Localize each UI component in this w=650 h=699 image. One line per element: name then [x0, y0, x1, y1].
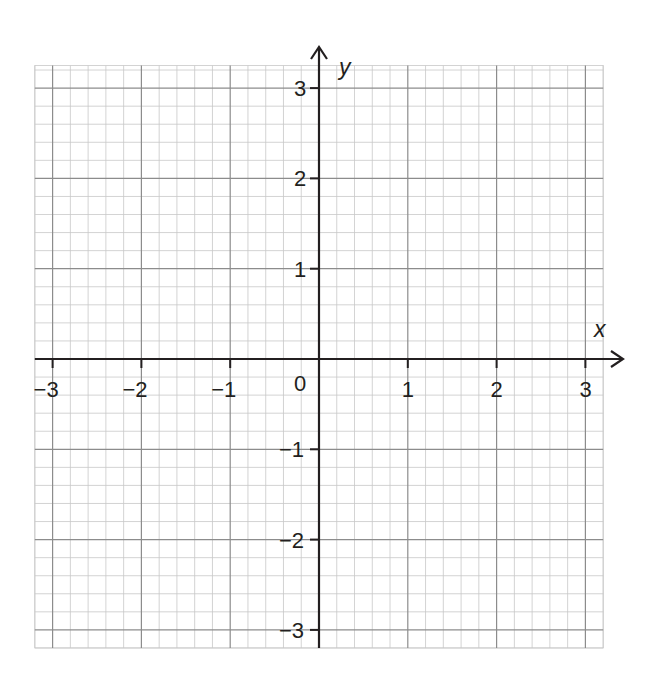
y-tick-label: −1	[279, 439, 304, 461]
x-tick-label: −3	[34, 379, 59, 401]
x-tick-label: −1	[211, 379, 236, 401]
x-tick-label: 1	[402, 379, 414, 401]
coordinate-grid	[0, 0, 650, 699]
y-axis-label: y	[339, 56, 351, 79]
origin-label: 0	[294, 373, 306, 395]
x-tick-label: 2	[491, 379, 503, 401]
y-tick-label: −2	[279, 530, 304, 552]
y-tick-label: 1	[294, 259, 306, 281]
x-tick-label: 3	[579, 379, 591, 401]
y-tick-label: 2	[294, 168, 306, 190]
x-tick-label: −2	[122, 379, 147, 401]
x-axis-label: x	[594, 318, 606, 341]
y-tick-label: 3	[294, 78, 306, 100]
y-tick-label: −3	[279, 620, 304, 642]
